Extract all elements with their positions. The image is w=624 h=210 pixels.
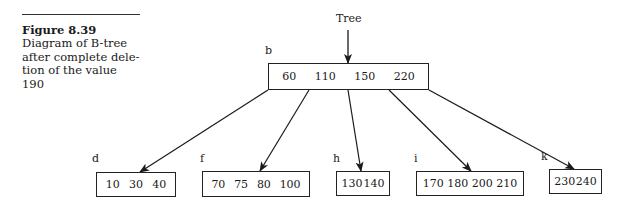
key: 70 <box>211 178 225 191</box>
key: 10 <box>106 178 120 191</box>
key: 150 <box>354 70 375 83</box>
node-label-k: k <box>541 150 548 163</box>
key: 170 <box>423 177 444 190</box>
key: 220 <box>394 70 415 83</box>
root-node: 60 110 150 220 <box>268 63 429 90</box>
leaf-node-k: 230 240 <box>549 169 602 194</box>
key: 110 <box>315 70 336 83</box>
edge-to-f <box>260 90 309 171</box>
entry-label: Tree <box>336 12 362 25</box>
node-label-i: i <box>414 152 418 165</box>
key: 240 <box>576 175 597 188</box>
key: 180 <box>447 177 468 190</box>
key: 140 <box>364 177 385 190</box>
edge-to-h <box>348 90 361 171</box>
key: 80 <box>257 178 271 191</box>
tree-edges <box>0 0 624 210</box>
leaf-node-h: 130 140 <box>336 171 390 196</box>
edge-to-i <box>389 90 471 171</box>
node-label-h: h <box>333 152 340 165</box>
key: 100 <box>280 178 301 191</box>
node-label-b: b <box>265 44 272 57</box>
key: 75 <box>234 178 248 191</box>
leaf-node-i: 170 180 200 210 <box>416 171 524 196</box>
node-label-d: d <box>92 152 99 165</box>
key: 30 <box>129 178 143 191</box>
node-label-f: f <box>200 152 204 165</box>
key: 130 <box>342 177 363 190</box>
key: 60 <box>282 70 296 83</box>
key: 210 <box>496 177 517 190</box>
edge-to-k <box>429 90 574 169</box>
leaf-node-f: 70 75 80 100 <box>202 171 310 197</box>
key: 40 <box>152 178 166 191</box>
leaf-node-d: 10 30 40 <box>96 172 176 197</box>
key: 230 <box>554 175 575 188</box>
key: 200 <box>472 177 493 190</box>
